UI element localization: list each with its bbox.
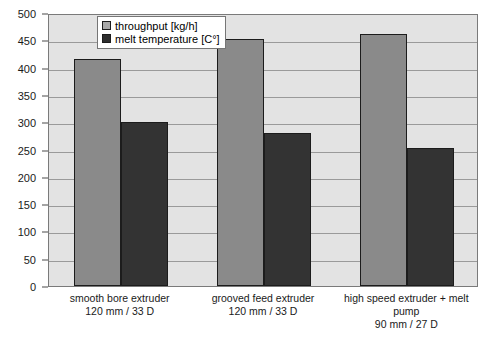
y-axis-tick-label: 0 <box>30 282 36 293</box>
y-axis-tick-label: 300 <box>18 118 36 129</box>
legend-item: throughput [kg/h] <box>102 19 220 32</box>
legend-swatch-icon <box>102 34 111 43</box>
x-axis-category-label: high speed extruder + meltpump90 mm / 27… <box>335 292 478 331</box>
legend-swatch-icon <box>102 21 111 30</box>
bar <box>407 148 454 286</box>
plot-area <box>48 14 478 287</box>
x-axis-category-label-line: 90 mm / 27 D <box>335 318 478 331</box>
legend-item-label: throughput [kg/h] <box>115 20 198 32</box>
y-axis-tick-label: 100 <box>18 227 36 238</box>
y-axis-tick-label: 50 <box>24 254 36 265</box>
y-axis-tick-label: 200 <box>18 172 36 183</box>
x-axis-category-label: smooth bore extruder120 mm / 33 D <box>48 292 191 318</box>
legend-item: melt temperature [C°] <box>102 32 220 45</box>
y-axis-tick-label: 250 <box>18 145 36 156</box>
y-axis: 050100150200250300350400450500 <box>0 14 42 287</box>
bar-chart: 050100150200250300350400450500 throughpu… <box>0 0 501 344</box>
x-axis-category-label-line: 120 mm / 33 D <box>48 305 191 318</box>
chart-legend: throughput [kg/h]melt temperature [C°] <box>97 16 226 49</box>
x-axis-category-label: grooved feed extruder120 mm / 33 D <box>191 292 334 318</box>
y-axis-tick-label: 400 <box>18 63 36 74</box>
y-axis-tick-label: 500 <box>18 9 36 20</box>
legend-item-label: melt temperature [C°] <box>115 33 220 45</box>
y-axis-tick-label: 350 <box>18 90 36 101</box>
x-axis-category-label-line: 120 mm / 33 D <box>191 305 334 318</box>
x-axis-category-label-line: smooth bore extruder <box>48 292 191 305</box>
bar <box>264 133 311 286</box>
x-axis-category-labels: smooth bore extruder120 mm / 33 Dgrooved… <box>48 292 478 342</box>
bar <box>121 122 168 286</box>
bar <box>360 34 407 286</box>
x-axis-category-label-line: pump <box>335 305 478 318</box>
bar <box>217 39 264 286</box>
y-axis-tick-label: 150 <box>18 200 36 211</box>
x-axis-category-label-line: grooved feed extruder <box>191 292 334 305</box>
x-axis-category-label-line: high speed extruder + melt <box>335 292 478 305</box>
y-axis-tick-label: 450 <box>18 36 36 47</box>
bar <box>74 59 121 286</box>
